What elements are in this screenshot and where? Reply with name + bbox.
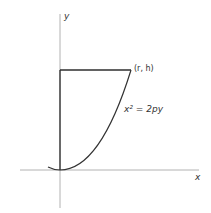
y-axis-label: y	[64, 12, 69, 21]
curve-equation-label: x² = 2py	[124, 105, 163, 114]
point-label: (r, h)	[134, 65, 154, 73]
x-axis-label: x	[195, 173, 200, 182]
diagram-canvas	[0, 0, 211, 213]
